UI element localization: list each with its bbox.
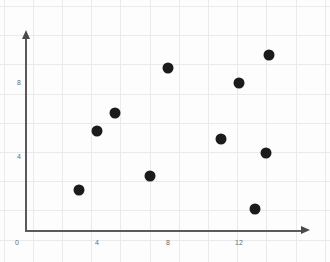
data-point [109, 107, 120, 118]
data-point [163, 63, 174, 74]
data-point [264, 50, 275, 61]
scatter-plot-figure: 0481248 [0, 0, 330, 262]
data-point [145, 170, 156, 181]
data-points-layer [0, 0, 330, 262]
data-point [234, 78, 245, 89]
data-point [92, 126, 103, 137]
data-point [260, 148, 271, 159]
data-point [74, 185, 85, 196]
data-point [216, 133, 227, 144]
data-point [250, 203, 261, 214]
